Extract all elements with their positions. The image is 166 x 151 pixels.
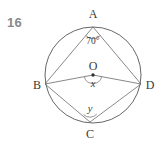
angle-label-70: 70° bbox=[86, 36, 100, 46]
vertex-label-a: A bbox=[89, 7, 98, 21]
angle-label-y: y bbox=[87, 103, 93, 114]
angle-arc-c bbox=[84, 114, 97, 117]
center-point-dot bbox=[91, 73, 94, 76]
center-label-o: O bbox=[89, 59, 98, 73]
figure-page: 16 A B C D O 70° x y bbox=[0, 0, 166, 151]
circle-geometry-diagram: A B C D O 70° x y bbox=[0, 0, 166, 151]
radius-od bbox=[93, 75, 141, 84]
vertex-label-d: D bbox=[146, 78, 155, 92]
chord-cd bbox=[90, 84, 141, 122]
radius-ob bbox=[45, 75, 93, 84]
chord-bc bbox=[45, 84, 90, 122]
vertex-label-c: C bbox=[86, 127, 94, 141]
vertex-label-b: B bbox=[33, 78, 41, 92]
angle-label-x: x bbox=[90, 78, 96, 89]
